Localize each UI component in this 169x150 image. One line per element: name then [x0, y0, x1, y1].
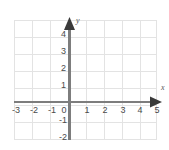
x-axis-name-label: x — [160, 83, 165, 92]
y-tick-label: -1 — [59, 115, 67, 125]
x-tick-label: 1 — [84, 105, 89, 115]
y-tick-label: 3 — [61, 46, 66, 56]
y-axis-name-label: y — [75, 16, 80, 25]
chart-background — [0, 0, 169, 150]
x-tick-label: 4 — [137, 105, 142, 115]
x-tick-label: -3 — [12, 105, 20, 115]
x-tick-label: -1 — [48, 105, 56, 115]
x-tick-label: 2 — [102, 105, 107, 115]
coordinate-grid-chart: -3 -2 -1 0 1 2 3 4 5 4 3 2 1 -1 -2 x y — [0, 0, 169, 150]
y-tick-label: 4 — [61, 29, 66, 39]
y-tick-label: 2 — [61, 63, 66, 73]
x-tick-label: 3 — [120, 105, 125, 115]
x-tick-label: 5 — [154, 105, 159, 115]
y-tick-label: -2 — [59, 132, 67, 142]
x-tick-label: -2 — [30, 105, 38, 115]
y-tick-label: 1 — [61, 80, 66, 90]
origin-label: 0 — [61, 105, 66, 115]
x-axis-tick-labels: -3 -2 -1 0 1 2 3 4 5 — [12, 105, 160, 115]
coordinate-plane: -3 -2 -1 0 1 2 3 4 5 4 3 2 1 -1 -2 x y — [0, 0, 169, 150]
